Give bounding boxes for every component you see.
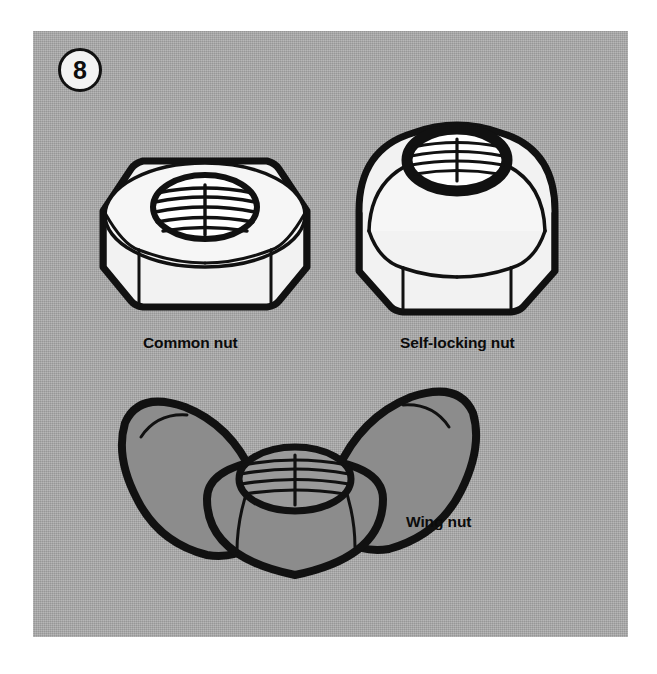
figure-panel: 8 [33,31,628,637]
figure-number-label: 8 [73,58,87,83]
caption-wing-nut: Wing nut [406,513,471,531]
wing-nut-icon [111,379,501,608]
figure-number-badge: 8 [58,48,102,92]
caption-self-locking-nut: Self-locking nut [400,334,515,352]
caption-common-nut: Common nut [143,334,238,352]
hex-nut-icon [95,149,315,338]
domed-lock-nut-icon [351,119,563,338]
